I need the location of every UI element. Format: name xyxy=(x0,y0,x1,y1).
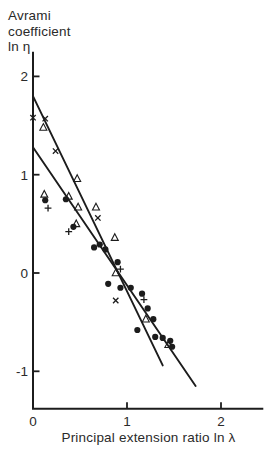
data-point-plus xyxy=(141,296,148,303)
data-point-triangle xyxy=(74,175,81,182)
x-tick-label: 1 xyxy=(123,414,131,429)
x-tick-label: 2 xyxy=(217,414,225,429)
data-point-circle xyxy=(150,316,156,322)
data-point-circle xyxy=(117,285,123,291)
data-point-circle xyxy=(42,197,48,203)
plot-area: 210-1012 xyxy=(0,0,278,461)
data-point-circle xyxy=(105,281,111,287)
data-point-circle xyxy=(115,259,121,265)
data-point-circle xyxy=(97,241,103,247)
data-point-circle xyxy=(134,327,140,333)
x-axis-title: Principal extension ratio ln λ xyxy=(33,430,264,445)
data-point-triangle xyxy=(75,203,82,210)
data-point-triangle xyxy=(111,234,118,241)
data-point-circle xyxy=(160,335,166,341)
x-tick-label: 0 xyxy=(29,414,37,429)
data-point-x xyxy=(113,298,118,303)
data-point-circle xyxy=(128,285,134,291)
data-point-circle xyxy=(139,291,145,297)
data-point-circle xyxy=(102,246,108,252)
data-point-circle xyxy=(145,305,151,311)
y-tick-label: 2 xyxy=(20,69,28,84)
data-point-x xyxy=(95,215,100,220)
data-point-plus xyxy=(65,228,72,235)
data-point-x xyxy=(53,148,58,153)
fit-steep-line xyxy=(33,96,163,365)
data-point-circle xyxy=(91,244,97,250)
fit-shallow-line xyxy=(33,147,196,386)
avrami-figure: Avrami coefficient ln η 210-1012 Princip… xyxy=(0,0,278,461)
data-point-plus xyxy=(45,205,52,212)
y-tick-label: 0 xyxy=(20,266,28,281)
data-point-triangle xyxy=(92,203,99,210)
y-tick-label: -1 xyxy=(16,364,28,379)
data-point-circle xyxy=(152,334,158,340)
data-point-triangle xyxy=(41,190,48,197)
y-tick-label: 1 xyxy=(20,168,28,183)
